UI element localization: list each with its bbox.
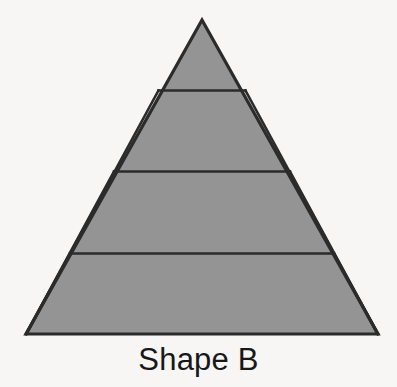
shape-figure: Shape B <box>0 0 397 387</box>
triangle-grid-diagram <box>0 0 397 387</box>
outer-triangle-fill <box>26 20 378 334</box>
shape-label: Shape B <box>0 340 397 380</box>
